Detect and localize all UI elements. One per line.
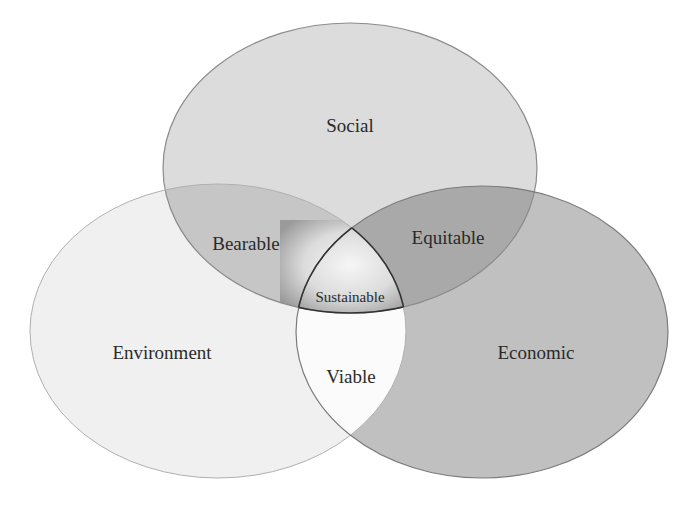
equitable-label: Equitable: [412, 227, 485, 248]
social-label: Social: [326, 115, 374, 136]
viable-label: Viable: [326, 366, 376, 387]
sustainability-venn-diagram: Social Environment Economic Bearable Equ…: [0, 0, 694, 507]
environment-label: Environment: [112, 342, 212, 363]
sustainable-label: Sustainable: [315, 289, 384, 305]
economic-label: Economic: [497, 342, 574, 363]
bearable-label: Bearable: [212, 233, 280, 254]
